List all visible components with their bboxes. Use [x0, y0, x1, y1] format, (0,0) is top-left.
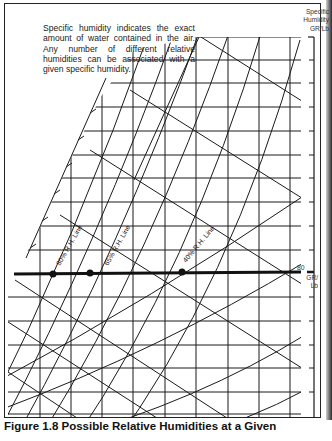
- axis-title-line: Humidity: [291, 16, 329, 24]
- rh-40-label: 40% R.H. Line: [181, 224, 215, 263]
- rh-80-label: 80% R.H. Line: [55, 224, 84, 267]
- rh-labels: 80% R.H. Line 65% R.H. Line 40% R.H. Lin…: [55, 224, 216, 267]
- explanation-note: Specific humidity indicates the exact am…: [43, 23, 195, 74]
- axis-title-line: Specific: [291, 8, 329, 16]
- figure-caption: Figure 1.8 Possible Relative Humidities …: [4, 420, 332, 432]
- axis-unit-line: GR/: [304, 274, 318, 282]
- rh-40-point: [179, 269, 186, 276]
- rh-80-point: [50, 271, 57, 278]
- specific-humidity-80-line: [14, 272, 301, 274]
- axis-marker-unit: GR/ Lb: [304, 274, 318, 290]
- axis-title-line: GR/Lb: [291, 25, 329, 33]
- specific-humidity-axis: [307, 37, 314, 418]
- specific-humidity-lines: [0, 37, 301, 414]
- axis-unit-line: Lb: [304, 282, 318, 290]
- axis-marker-value: 80: [297, 264, 305, 271]
- axis-title: Specific Humidity GR/Lb: [291, 8, 329, 33]
- rh-65-point: [87, 270, 94, 277]
